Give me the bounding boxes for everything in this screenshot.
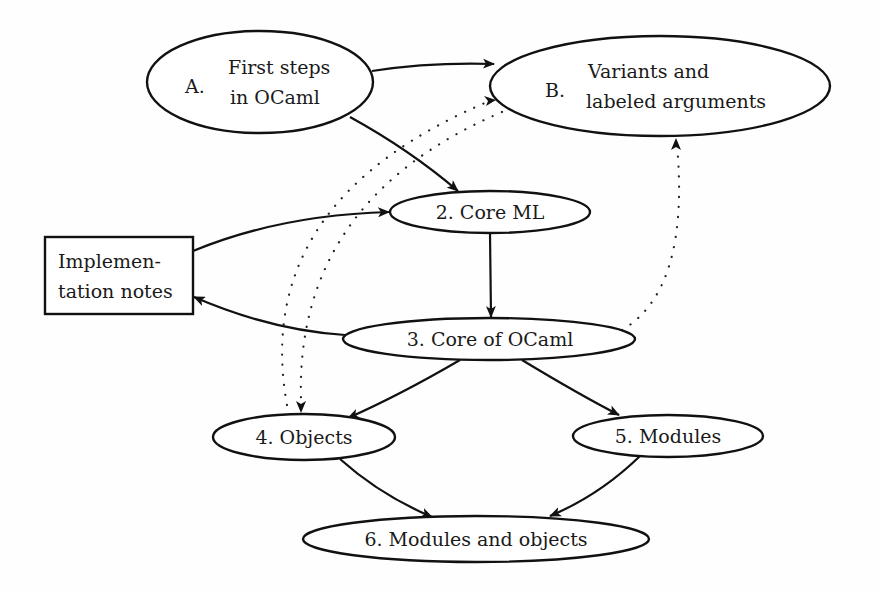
node-b-line2: labeled arguments	[586, 90, 766, 112]
edge-objects-to-modules-objects	[340, 459, 432, 517]
node-b-prefix: B.	[545, 79, 565, 101]
node-a-prefix: A.	[184, 75, 205, 97]
node-3-core-of-ocaml: 3. Core of OCaml	[343, 318, 635, 360]
node-6-modules-and-objects: 6. Modules and objects	[303, 516, 649, 562]
node-5-modules: 5. Modules	[573, 415, 763, 457]
node-a-first-steps: A. First steps in OCaml	[147, 31, 373, 133]
node-2-core-ml: 2. Core ML	[390, 191, 590, 233]
edge-core-ocaml-to-modules	[522, 360, 619, 415]
edge-modules-to-modules-objects	[550, 456, 640, 516]
node-4-label: 4. Objects	[255, 426, 352, 448]
node-6-label: 6. Modules and objects	[364, 528, 587, 550]
edge-core-ml-to-core-ocaml	[490, 233, 491, 317]
arrowhead-core-ocaml-to-b	[671, 138, 681, 150]
diagram-svg: A. First steps in OCaml B. Variants and …	[0, 0, 878, 594]
edge-core-ocaml-to-objects	[348, 360, 460, 418]
node-a-line2: in OCaml	[230, 86, 320, 108]
node-b-line1: Variants and	[587, 60, 709, 82]
edge-impl-to-core-ml	[193, 212, 389, 251]
node-a-line1: First steps	[228, 56, 330, 78]
node-3-label: 3. Core of OCaml	[407, 328, 574, 350]
node-2-label: 2. Core ML	[436, 201, 545, 223]
edge-core-ocaml-to-b-dotted	[622, 145, 679, 330]
node-4-objects: 4. Objects	[213, 414, 395, 460]
impl-line2: tation notes	[58, 280, 173, 302]
edge-a-to-b	[372, 64, 494, 71]
edge-core-ocaml-to-impl	[194, 297, 345, 335]
dependency-diagram: A. First steps in OCaml B. Variants and …	[0, 0, 878, 594]
edge-a-to-core-ml	[350, 117, 458, 191]
impl-line1: Implemen-	[58, 250, 161, 272]
node-5-label: 5. Modules	[615, 425, 722, 447]
node-implementation-notes: Implemen- tation notes	[45, 237, 193, 314]
arrowhead-b-to-objects	[296, 401, 306, 413]
node-b-variants: B. Variants and labeled arguments	[490, 36, 830, 136]
